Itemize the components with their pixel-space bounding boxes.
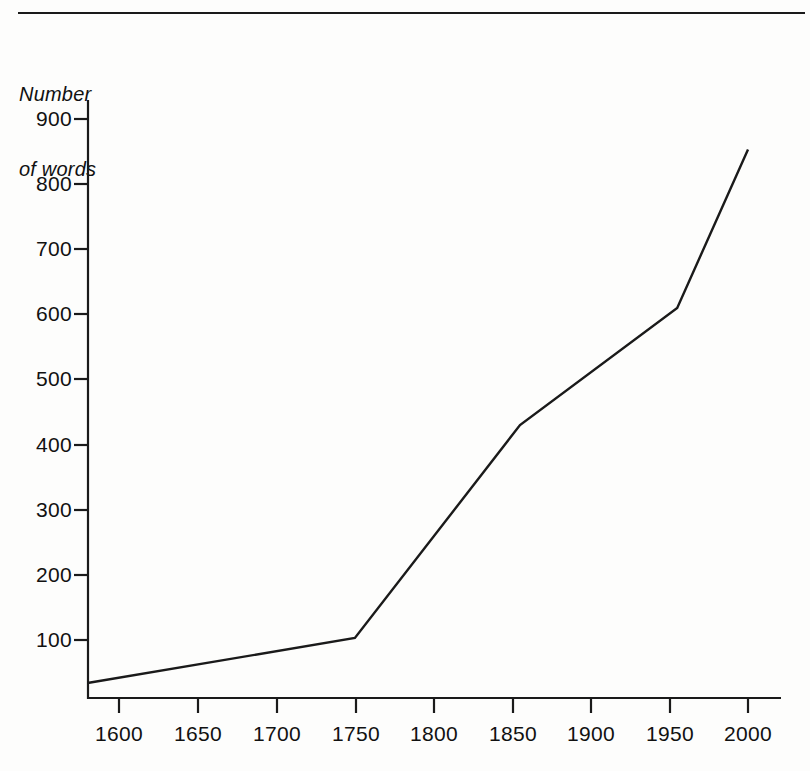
x-tick-label-1850: 1850 [478,722,548,746]
x-tick-label-1600: 1600 [84,722,154,746]
y-tick-label-300: 300 [10,498,72,522]
y-tick-label-700: 700 [10,237,72,261]
data-series-line [88,150,749,683]
x-tick-label-1750: 1750 [321,722,391,746]
x-tick-label-2000: 2000 [713,722,783,746]
x-tick-label-1800: 1800 [399,722,469,746]
x-axis-ticks [119,699,748,713]
y-tick-label-200: 200 [10,563,72,587]
y-tick-label-900: 900 [10,107,72,131]
x-tick-label-1900: 1900 [556,722,626,746]
y-tick-label-400: 400 [10,433,72,457]
y-axis-ticks [74,119,89,640]
y-tick-label-600: 600 [10,302,72,326]
y-tick-label-500: 500 [10,367,72,391]
figure-page: Number of words [0,0,810,771]
line-chart-plot [0,0,810,771]
y-tick-label-800: 800 [10,172,72,196]
y-tick-label-100: 100 [10,628,72,652]
axes-group [87,100,781,699]
x-tick-label-1950: 1950 [635,722,705,746]
x-tick-label-1700: 1700 [242,722,312,746]
x-tick-label-1650: 1650 [163,722,233,746]
